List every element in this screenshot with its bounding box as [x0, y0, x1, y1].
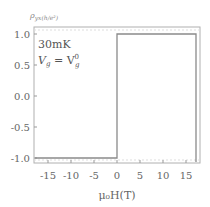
- y-tick-label: 1.0: [14, 29, 30, 40]
- x-tick-label: -15: [40, 170, 56, 181]
- y-tick-label: -1.0: [11, 153, 30, 164]
- y-tick-label: 0.5: [14, 60, 30, 71]
- x-tick-label: 10: [157, 170, 170, 181]
- temperature-annotation: 30mK: [38, 38, 71, 51]
- y-axis: 1.0 0.5 0.0 -0.5 -1.0: [11, 29, 37, 164]
- x-axis-label: μ₀H(T): [98, 189, 135, 202]
- y-tick-label: -0.5: [11, 122, 30, 133]
- x-tick-label: 15: [180, 170, 193, 181]
- x-tick-label: -10: [63, 170, 79, 181]
- gate-voltage-annotation: Vg = V0g: [38, 53, 80, 69]
- y-axis-label: ρyx(h/e²): [29, 11, 59, 22]
- y-tick-label: 0.0: [14, 91, 30, 102]
- x-tick-label: -5: [89, 170, 99, 181]
- x-tick-label: 0: [114, 170, 120, 181]
- hall-resistivity-chart: ρyx(h/e²) 1.0 0.5 0.0 -0.5 -1.0 -15 -10 …: [0, 0, 210, 207]
- x-tick-label: 5: [137, 170, 143, 181]
